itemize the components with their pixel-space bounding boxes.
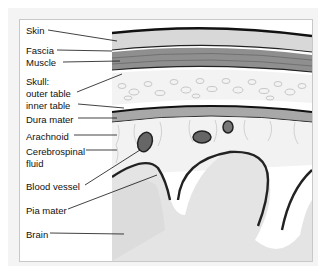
label-outer-table: outer table xyxy=(26,88,71,99)
label-muscle: Muscle xyxy=(26,57,56,68)
label-blood-vessel: Blood vessel xyxy=(26,181,80,192)
label-skin: Skin xyxy=(26,25,44,36)
label-csf-line1: Cerebrospinal xyxy=(26,146,85,157)
label-skull: Skull: xyxy=(26,76,49,87)
label-csf-line2: fluid xyxy=(26,158,43,169)
label-fascia: Fascia xyxy=(26,45,54,56)
label-arachnoid: Arachnoid xyxy=(26,131,69,142)
label-brain: Brain xyxy=(26,229,48,240)
label-dura-mater: Dura mater xyxy=(26,114,74,125)
label-pia-mater: Pia mater xyxy=(26,205,67,216)
label-inner-table: inner table xyxy=(26,100,70,111)
